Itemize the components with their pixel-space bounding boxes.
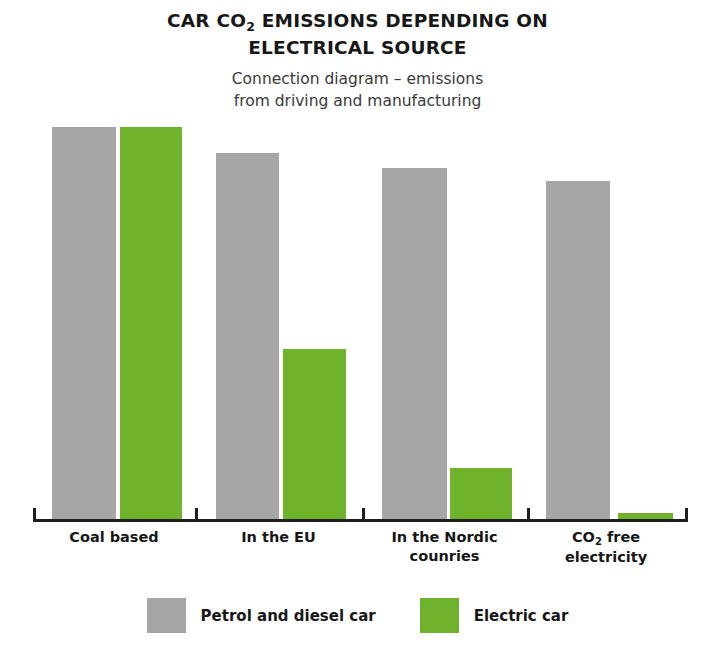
x-axis-tick-4: [685, 508, 688, 519]
bar-petrol-in-the-eu: [216, 153, 279, 519]
x-axis-tick-2: [362, 508, 365, 519]
x-axis-label-in-the-nordic-line1: In the Nordic: [391, 529, 497, 545]
bar-chart-plot: Coal based In the EU In the Nordic counr…: [0, 0, 715, 654]
x-axis-label-coal-based-line1: Coal based: [69, 529, 158, 545]
legend-item-electric-car: Electric car: [420, 598, 569, 633]
bar-electric-coal-based: [120, 127, 182, 519]
legend: Petrol and diesel car Electric car: [0, 598, 715, 633]
bar-petrol-in-the-nordic: [382, 168, 447, 519]
legend-swatch-petrol-icon: [147, 598, 186, 633]
x-axis-label-co2-free-pre: CO: [572, 529, 595, 545]
bar-petrol-co2-free: [546, 181, 610, 519]
bars-layer: [0, 0, 715, 519]
x-axis-label-co2-subscript: 2: [595, 536, 602, 547]
x-axis-label-co2-free-electricity: CO2 free electricity: [527, 528, 685, 567]
legend-item-petrol-and-diesel-car: Petrol and diesel car: [147, 598, 376, 633]
x-axis-tick-3: [527, 508, 530, 519]
bar-electric-in-the-nordic: [450, 468, 512, 519]
x-axis-tick-0: [33, 508, 36, 519]
bar-electric-in-the-eu: [283, 349, 346, 519]
bar-petrol-coal-based: [52, 127, 116, 519]
x-axis-label-coal-based: Coal based: [33, 528, 195, 547]
legend-swatch-electric-icon: [420, 598, 459, 633]
legend-label-petrol: Petrol and diesel car: [201, 607, 376, 625]
x-axis-label-in-the-nordic-line2: counries: [410, 548, 480, 564]
x-axis-label-in-the-eu: In the EU: [195, 528, 362, 547]
x-axis-label-in-the-eu-line1: In the EU: [241, 529, 316, 545]
x-axis-label-co2-free-post: free: [602, 529, 640, 545]
legend-label-electric: Electric car: [474, 607, 569, 625]
x-axis-line: [33, 519, 688, 522]
x-axis-label-co2-free-line2: electricity: [565, 549, 647, 565]
x-axis-label-in-the-nordic: In the Nordic counries: [362, 528, 527, 566]
x-axis-tick-1: [195, 508, 198, 519]
